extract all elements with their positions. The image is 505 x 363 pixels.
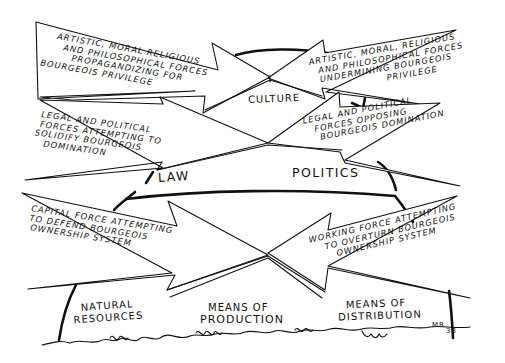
- culture-label: CULTURE: [248, 92, 301, 105]
- means-of-production-label: MEANS OF PRODUCTION: [200, 302, 284, 326]
- page-number: 33: [446, 327, 457, 335]
- ground-grass: [42, 326, 470, 345]
- natural-resources-label: NATURAL RESOURCES: [72, 298, 143, 326]
- artist-signature: MR: [432, 321, 445, 329]
- means-of-distribution-label: MEANS OF DISTRIBUTION: [338, 297, 422, 323]
- base-arrows: [22, 193, 470, 298]
- base-superstructure-diagram: ARTISTIC, MORAL RELIGIOUS AND PHILOSOPHI…: [0, 0, 505, 363]
- law-label: LAW: [158, 169, 191, 186]
- text-line: PRODUCTION: [200, 314, 284, 327]
- politics-label: POLITICS: [292, 166, 359, 180]
- text-line: MEANS OF: [200, 302, 284, 314]
